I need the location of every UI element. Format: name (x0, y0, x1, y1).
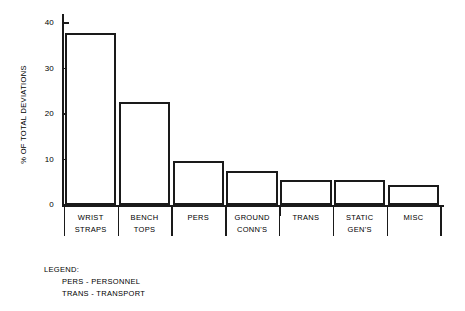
legend-title: LEGEND: (44, 264, 145, 276)
category-label-divider (225, 210, 226, 236)
bar (388, 185, 439, 205)
bar (173, 161, 224, 205)
category-label-divider (118, 210, 119, 236)
legend: LEGEND: PERS - PERSONNELTRANS - TRANSPOR… (44, 264, 145, 300)
legend-entries: PERS - PERSONNELTRANS - TRANSPORT (44, 276, 145, 300)
bar (119, 102, 170, 205)
category-label-line2: CONN'S (226, 224, 277, 236)
category-label-divider (333, 210, 334, 236)
y-axis-line (62, 14, 64, 207)
category-label-line1: MISC (404, 213, 424, 222)
category-label-line1: BENCH (131, 213, 159, 222)
bar (334, 180, 385, 205)
y-axis-tick-label: 30 (32, 65, 54, 73)
category-label-line2: STRAPS (65, 224, 116, 236)
category-label: WRISTSTRAPS (65, 212, 116, 235)
category-label-divider (64, 210, 65, 236)
category-label-divider (171, 210, 172, 236)
category-label-divider (440, 210, 441, 236)
category-label-line1: WRIST (78, 213, 104, 222)
category-label: GROUNDCONN'S (226, 212, 277, 235)
category-label-line2: GEN'S (334, 224, 385, 236)
y-axis-tick-label: 0 (32, 201, 54, 209)
y-axis-title: % OF TOTAL DEVIATIONS (19, 45, 28, 185)
category-label-line1: PERS (187, 213, 209, 222)
bar (226, 171, 277, 205)
category-label-line2: TOPS (119, 224, 170, 236)
y-axis-tick-label: 10 (32, 156, 54, 164)
category-label: TRANS (280, 212, 331, 224)
y-axis-tick-label: 40 (32, 19, 54, 27)
bar (65, 33, 116, 205)
bar-chart: % OF TOTAL DEVIATIONS 403020100 WRISTSTR… (0, 0, 465, 311)
bar (280, 180, 331, 205)
category-label-line1: GROUND (235, 213, 270, 222)
category-label: MISC (388, 212, 439, 224)
category-label-divider (279, 210, 280, 236)
category-label-line1: TRANS (292, 213, 319, 222)
category-label: BENCHTOPS (119, 212, 170, 235)
legend-entry: PERS - PERSONNEL (62, 276, 145, 288)
legend-entry: TRANS - TRANSPORT (62, 288, 145, 300)
plot-area (62, 14, 444, 207)
category-label: PERS (173, 212, 224, 224)
category-label-line1: STATIC (346, 213, 373, 222)
category-label: STATICGEN'S (334, 212, 385, 235)
y-axis-tick-mark (64, 22, 69, 24)
y-axis-tick-label: 20 (32, 110, 54, 118)
category-label-divider (387, 210, 388, 236)
